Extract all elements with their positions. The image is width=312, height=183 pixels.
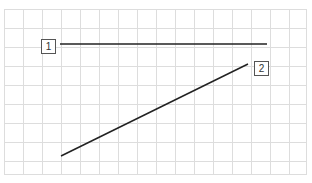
grid xyxy=(4,9,307,175)
line-2-label: 2 xyxy=(254,61,269,76)
grid-diagram xyxy=(0,0,312,183)
line-1-label: 1 xyxy=(41,39,56,54)
